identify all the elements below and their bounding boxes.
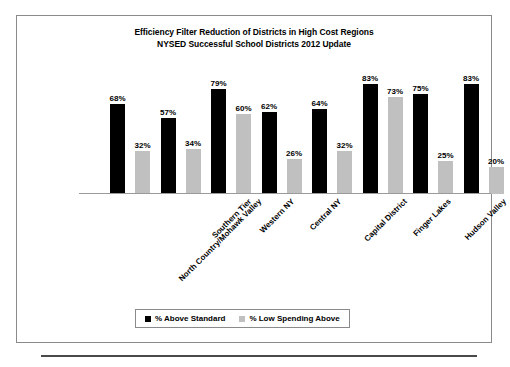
bar-rect — [110, 104, 125, 194]
bar: 20% — [489, 167, 504, 194]
bar: 26% — [287, 159, 302, 194]
bar-rect — [236, 114, 251, 194]
bar: 57% — [161, 118, 176, 194]
bar-value-label: 75% — [412, 84, 428, 93]
bar: 60% — [236, 114, 251, 194]
bar: 32% — [135, 151, 150, 194]
bar-value-label: 64% — [311, 99, 327, 108]
category-label: Hudson Valley — [463, 197, 508, 242]
bar-value-label: 62% — [261, 102, 277, 111]
bar-rect — [489, 167, 504, 194]
bar-rect — [161, 118, 176, 194]
bar: 75% — [413, 94, 428, 194]
bar-rect — [312, 109, 327, 194]
bar: 83% — [464, 84, 479, 194]
bar: 34% — [186, 149, 201, 194]
category-label: Western NY — [258, 197, 296, 235]
legend-item-low-spending-above: % Low Spending Above — [239, 314, 339, 323]
bar-value-label: 34% — [185, 139, 201, 148]
bar: 79% — [211, 89, 226, 194]
category-label: North Country/Mohawk Valley — [177, 197, 263, 283]
bar: 83% — [363, 84, 378, 194]
chart-title: Efficiency Filter Reduction of Districts… — [17, 27, 491, 50]
bar-rect — [363, 84, 378, 194]
bar-value-label: 73% — [387, 87, 403, 96]
bar-value-label: 26% — [286, 149, 302, 158]
legend-label-above-standard: % Above Standard — [155, 314, 225, 323]
bar-rect — [135, 151, 150, 194]
bar-rect — [186, 149, 201, 194]
bar-value-label: 83% — [362, 74, 378, 83]
bar-rect — [287, 159, 302, 194]
bar-value-label: 60% — [235, 104, 251, 113]
bar-rect — [464, 84, 479, 194]
legend-item-above-standard: % Above Standard — [145, 314, 225, 323]
bar-rect — [211, 89, 226, 194]
bar-value-label: 68% — [109, 94, 125, 103]
bar: 64% — [312, 109, 327, 194]
bar: 73% — [388, 97, 403, 194]
bar-rect — [438, 161, 453, 194]
chart-frame: Efficiency Filter Reduction of Districts… — [16, 15, 492, 343]
legend-label-low-spending-above: % Low Spending Above — [249, 314, 339, 323]
chart-legend: % Above Standard % Low Spending Above — [135, 309, 350, 328]
bar-rect — [262, 112, 277, 194]
category-label: Finger Lakes — [411, 197, 452, 238]
bar-value-label: 79% — [210, 79, 226, 88]
plot-area: 68%32%57%34%79%60%62%26%64%32%83%73%75%2… — [79, 61, 485, 194]
bar: 32% — [337, 151, 352, 194]
bar-rect — [388, 97, 403, 194]
category-label: Central NY — [307, 197, 342, 232]
bar-value-label: 57% — [160, 108, 176, 117]
bar-rect — [413, 94, 428, 194]
legend-swatch-low-spending-above — [239, 316, 245, 322]
bar-value-label: 25% — [437, 151, 453, 160]
chart-title-line-1: Efficiency Filter Reduction of Districts… — [17, 27, 491, 39]
chart-title-line-2: NYSED Successful School Districts 2012 U… — [17, 39, 491, 51]
category-label: Capital District — [363, 197, 409, 243]
bar-value-label: 83% — [463, 74, 479, 83]
bar: 68% — [110, 104, 125, 194]
footer-divider — [41, 355, 477, 357]
x-axis-line — [79, 193, 491, 194]
bar: 62% — [262, 112, 277, 194]
bar-rect — [337, 151, 352, 194]
bar: 25% — [438, 161, 453, 194]
bar-value-label: 32% — [134, 141, 150, 150]
bar-value-label: 20% — [488, 157, 504, 166]
bar-value-label: 32% — [336, 141, 352, 150]
legend-swatch-above-standard — [145, 316, 151, 322]
